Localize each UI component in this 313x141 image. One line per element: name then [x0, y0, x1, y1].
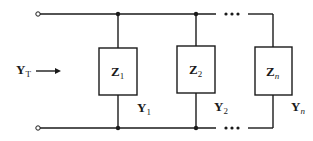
admittance-label-y2: Y2	[214, 99, 228, 116]
junction-node	[116, 12, 120, 16]
ellipsis-bottom-icon	[224, 126, 239, 129]
total-admittance-label: YT	[16, 62, 31, 79]
admittance-label-y1: Y1	[137, 100, 151, 117]
ellipsis-top-icon	[224, 12, 239, 15]
junction-node	[194, 126, 198, 130]
junction-node	[194, 12, 198, 16]
branch-2: Z2 Y2	[177, 12, 228, 130]
branch-1: Z1 Y1	[99, 12, 151, 130]
parallel-circuit-diagram: Z1 Y1 Z2 Y2 Zn Yn YT	[0, 0, 313, 141]
branch-n: Zn Yn	[255, 14, 305, 128]
admittance-label-yn: Yn	[291, 99, 305, 116]
right-arrow-icon	[36, 68, 61, 74]
input-terminal-bottom	[36, 126, 40, 130]
input-terminal-top	[36, 12, 40, 16]
junction-node	[116, 126, 120, 130]
